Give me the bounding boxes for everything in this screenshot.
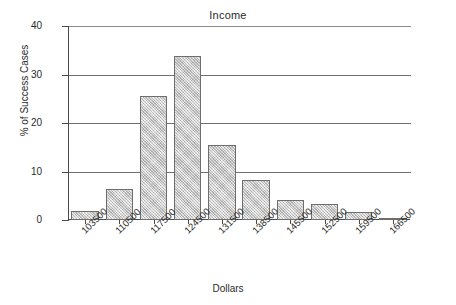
bar-slot-0 [68, 26, 102, 220]
ytick-mark-0 [62, 220, 69, 221]
ytick-label-0: 0 [2, 214, 42, 225]
x-axis-label: Dollars [0, 283, 456, 294]
bar-124500[interactable] [174, 56, 201, 220]
bar-117500[interactable] [140, 96, 167, 220]
bar-slot-2 [136, 26, 170, 220]
bar-slot-3 [171, 26, 205, 220]
chart-title: Income [0, 9, 456, 21]
income-histogram-chart: Income 40 30 20 10 0 % of Success Cases … [0, 0, 456, 305]
bar-slot-5 [239, 26, 273, 220]
bar-slot-7 [307, 26, 341, 220]
bar-slot-8 [342, 26, 376, 220]
bar-slot-6 [273, 26, 307, 220]
bar-slot-9 [376, 26, 410, 220]
bar-131500[interactable] [208, 145, 235, 220]
bar-slot-4 [205, 26, 239, 220]
bar-series [68, 26, 410, 220]
y-axis-label: % of Success Cases [19, 1, 30, 181]
bar-slot-1 [102, 26, 136, 220]
